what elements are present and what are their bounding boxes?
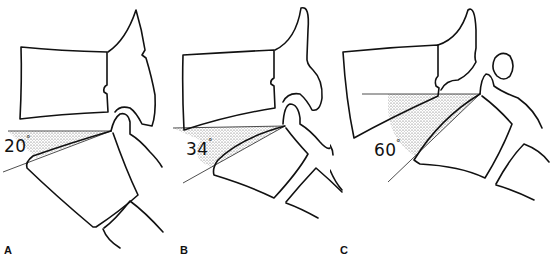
panel-a-drawing bbox=[0, 0, 175, 257]
upper-posterior-element bbox=[438, 9, 476, 90]
angle-label-c: 60 bbox=[374, 140, 397, 160]
panel-label-b: B bbox=[180, 244, 188, 256]
degree-symbol: ° bbox=[26, 134, 31, 144]
angle-label-a: 20 bbox=[4, 136, 27, 156]
panel-c: 60 ° C bbox=[330, 0, 551, 257]
next-segment bbox=[104, 201, 163, 232]
facet-joint bbox=[283, 104, 330, 148]
degree-symbol: ° bbox=[396, 138, 401, 148]
panel-b-drawing bbox=[170, 0, 345, 257]
panel-b: 34 ° B bbox=[170, 0, 345, 257]
degree-symbol: ° bbox=[208, 137, 213, 147]
next-segment-edge bbox=[286, 203, 318, 218]
next-segment-edge bbox=[103, 229, 120, 248]
adjacent-contour bbox=[330, 145, 333, 155]
adjacent-contour bbox=[330, 170, 342, 190]
upper-posterior-element bbox=[108, 10, 155, 126]
panel-a: 20 ° A bbox=[0, 0, 175, 257]
upper-posterior-element bbox=[275, 8, 322, 111]
spinous-process bbox=[493, 53, 513, 79]
next-segment-edge bbox=[496, 185, 534, 200]
next-segment bbox=[496, 144, 549, 184]
panel-label-c: C bbox=[340, 244, 348, 256]
figure: 20 ° A 34 ° B bbox=[0, 0, 551, 257]
upper-vertebral-body bbox=[183, 50, 275, 130]
angle-label-b: 34 bbox=[186, 139, 209, 159]
panel-c-drawing bbox=[330, 0, 551, 257]
facet-joint bbox=[111, 114, 162, 167]
upper-vertebral-body bbox=[20, 47, 108, 119]
panel-label-a: A bbox=[4, 244, 12, 256]
